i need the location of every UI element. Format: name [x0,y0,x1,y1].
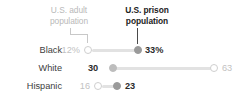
marker-prison-hispanic[interactable] [113,82,121,90]
value-prison-white: 30 [88,59,98,77]
chart-row-black: Black 12% 33% [0,41,248,59]
value-prison-black: 33% [145,41,163,59]
chart-row-hispanic: Hispanic 16 23 [0,77,248,95]
marker-prison-black[interactable] [134,46,142,54]
row-label-hispanic: Hispanic [0,77,62,95]
legend-label-prison-population: U.S. prison population [108,5,186,26]
row-track-hispanic: 16 23 [68,77,244,95]
dot-plot-chart: U.S. adult population U.S. prison popula… [0,0,248,100]
value-adult-black: 12% [46,41,80,59]
legend-label-adult-population: U.S. adult population [33,5,105,26]
value-prison-hispanic: 23 [125,77,135,95]
marker-adult-black[interactable] [84,46,92,54]
marker-adult-hispanic[interactable] [94,82,102,90]
row-track-white: 30 63 [68,59,244,77]
row-label-white: White [0,59,62,77]
value-adult-hispanic: 16 [60,77,90,95]
connector-bar-black [92,49,140,52]
connector-bar-white [114,67,214,70]
marker-adult-white[interactable] [210,64,218,72]
chart-row-white: White 30 63 [0,59,248,77]
value-adult-white: 63 [222,59,232,77]
row-track-black: 12% 33% [68,41,244,59]
leader-line-adult-horizontal [70,34,88,35]
marker-prison-white[interactable] [109,64,117,72]
